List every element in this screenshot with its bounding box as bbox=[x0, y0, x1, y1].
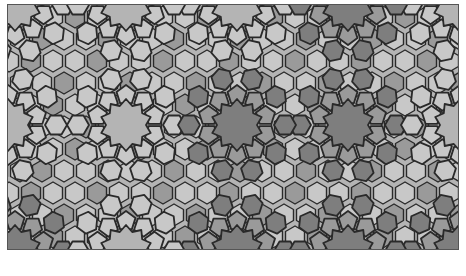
tiling-artwork bbox=[8, 5, 459, 250]
geometric-pattern-image bbox=[7, 4, 459, 250]
